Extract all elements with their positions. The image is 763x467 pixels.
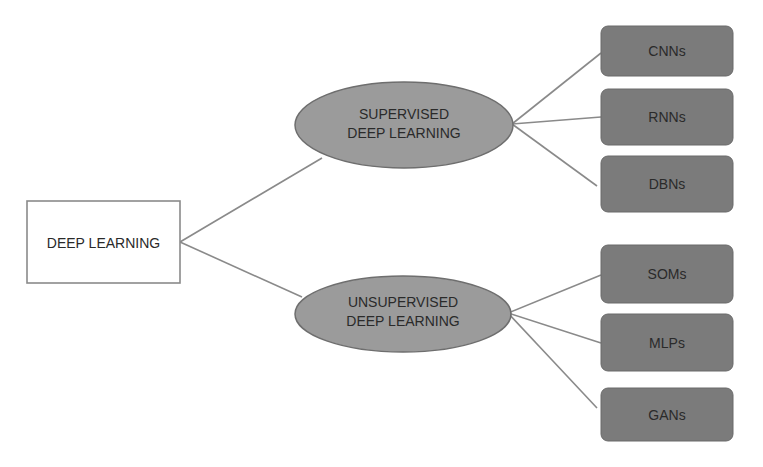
leaf-dbns-label: DBNs	[649, 176, 686, 192]
connector-supervised-rnns	[512, 117, 601, 124]
branch-supervised-label-line2: DEEP LEARNING	[347, 125, 460, 141]
leaf-mlps: MLPs	[601, 314, 733, 371]
leaf-soms: SOMs	[601, 245, 733, 303]
connector-supervised-dbns	[512, 124, 597, 186]
connector-supervised-cnns	[512, 53, 601, 124]
leaf-dbns: DBNs	[601, 156, 733, 212]
connector-root-supervised	[180, 158, 322, 242]
branch-unsupervised-label-line2: DEEP LEARNING	[346, 313, 459, 329]
branch-supervised-label-line1: SUPERVISED	[359, 106, 449, 122]
branch-unsupervised-label-line1: UNSUPERVISED	[348, 294, 458, 310]
leaf-cnns: CNNs	[601, 26, 733, 76]
leaf-rnns: RNNs	[601, 89, 733, 145]
leaf-gans: GANs	[601, 388, 733, 441]
leaf-rnns-label: RNNs	[648, 109, 685, 125]
root-label: DEEP LEARNING	[47, 235, 160, 251]
leaf-mlps-label: MLPs	[649, 335, 685, 351]
leaf-gans-label: GANs	[648, 407, 685, 423]
leaf-cnns-label: CNNs	[648, 43, 685, 59]
branch-unsupervised: UNSUPERVISED DEEP LEARNING	[295, 276, 511, 352]
deep-learning-diagram: DEEP LEARNING SUPERVISED DEEP LEARNING U…	[0, 0, 763, 467]
connector-root-unsupervised	[180, 242, 302, 297]
branch-supervised: SUPERVISED DEEP LEARNING	[295, 82, 513, 168]
root-node: DEEP LEARNING	[27, 201, 180, 283]
connector-unsupervised-soms	[508, 275, 601, 313]
leaf-soms-label: SOMs	[648, 266, 687, 282]
